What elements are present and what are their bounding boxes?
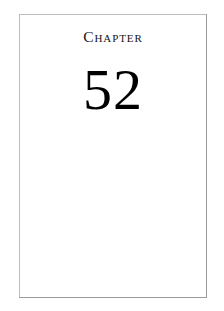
chapter-heading-label: Chapter (20, 29, 206, 45)
chapter-page-sheet: Chapter 52 (19, 14, 207, 298)
page-content-area: Chapter 52 (20, 15, 206, 297)
chapter-body-text (36, 135, 190, 287)
chapter-number: 52 (20, 61, 206, 119)
screenshot-canvas: Chapter 52 (0, 0, 224, 311)
